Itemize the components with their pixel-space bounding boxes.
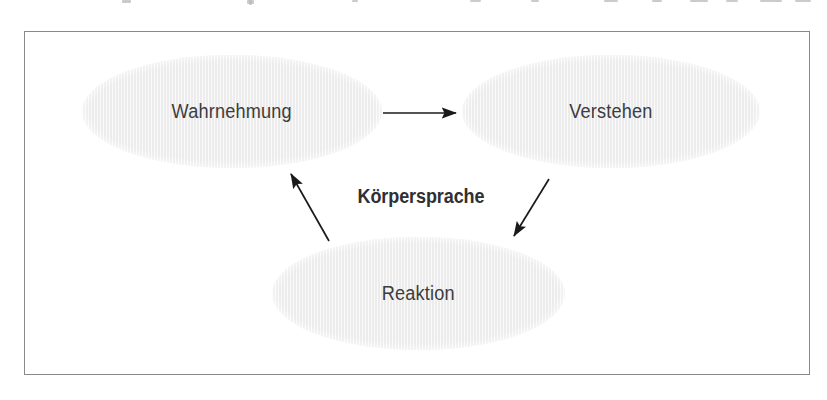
center-label-koerpersprache: Körpersprache [353, 185, 490, 208]
node-wahrnehmung[interactable]: Wahrnehmung [82, 55, 382, 168]
cropped-text-sliver [0, 0, 827, 7]
node-label-wahrnehmung: Wahrnehmung [172, 100, 292, 123]
node-label-reaktion: Reaktion [382, 282, 455, 305]
node-label-verstehen: Verstehen [569, 100, 652, 123]
node-verstehen[interactable]: Verstehen [462, 55, 760, 168]
node-reaktion[interactable]: Reaktion [272, 237, 565, 350]
